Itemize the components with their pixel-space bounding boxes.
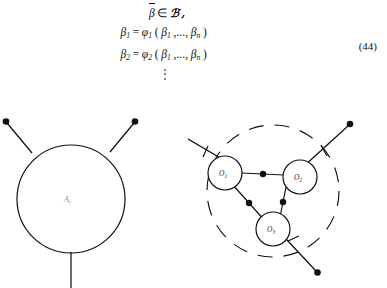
- equation-number: (44): [359, 40, 377, 52]
- leg-o1-external: [188, 133, 222, 159]
- leg-o2-endpoint-dot: [347, 121, 354, 128]
- equation-line-beta-2: β2=φ2(β1,...,βn): [0, 45, 330, 67]
- paren-open-1: (: [152, 26, 161, 38]
- node-o3-label-subscript: 3: [272, 229, 275, 235]
- arg-last-sub-2: n: [197, 52, 201, 61]
- equation-vertical-ellipsis: ⋮: [0, 67, 330, 81]
- edge-o1-o2-marker-dot: [260, 171, 266, 177]
- leg-o2-external: [303, 126, 348, 167]
- leg-o3-tick-mark: [288, 236, 299, 241]
- equation-block: β∈ℬ′, β1=φ1(β1,...,βn) β2=φ2(β1,...,βn) …: [0, 4, 387, 96]
- leg-upper-left-endpoint-dot: [3, 118, 10, 125]
- blob-circle: [17, 145, 125, 253]
- figure-left-blob-vertex: Ai: [0, 105, 180, 288]
- arg-ellipsis-1: ,...,: [171, 26, 191, 38]
- node-o1-label-subscript: 1: [224, 173, 227, 179]
- equals-sign-2: =: [130, 48, 142, 60]
- equals-sign-1: =: [130, 26, 142, 38]
- blob-vertex-label-subscript: i: [69, 199, 71, 205]
- equation-lines: β∈ℬ′, β1=φ1(β1,...,βn) β2=φ2(β1,...,βn) …: [0, 4, 330, 81]
- right-diagram-svg: O1 O2 O3: [188, 105, 387, 288]
- blob-vertex-label: Ai: [63, 195, 71, 205]
- edge-o1-o3-marker-dot: [246, 200, 252, 206]
- leg-o3-endpoint-dot: [314, 269, 321, 276]
- beta-bar-symbol: β: [149, 4, 155, 23]
- paren-close-2: ): [201, 48, 210, 60]
- membership-relation: ∈: [155, 7, 170, 19]
- leg-upper-left: [7, 123, 32, 153]
- equation-line-membership: β∈ℬ′,: [0, 4, 330, 23]
- leg-upper-right: [110, 123, 134, 152]
- left-diagram-svg: Ai: [0, 105, 180, 288]
- page-canvas: β∈ℬ′, β1=φ1(β1,...,βn) β2=φ2(β1,...,βn) …: [0, 0, 387, 288]
- figure-right-expanded-triangle: O1 O2 O3: [188, 105, 387, 288]
- edge-o2-o3-marker-dot: [280, 199, 286, 205]
- arg-last-sub-1: n: [197, 30, 201, 39]
- script-b-prime-symbol: ℬ′,: [170, 6, 185, 20]
- arg-ellipsis-2: ,...,: [171, 48, 191, 60]
- leg-upper-right-endpoint-dot: [132, 118, 139, 125]
- equation-line-beta-1: β1=φ1(β1,...,βn): [0, 23, 330, 45]
- paren-close-1: ): [201, 26, 210, 38]
- node-o2-label-subscript: 2: [299, 177, 302, 183]
- paren-open-2: (: [152, 48, 161, 60]
